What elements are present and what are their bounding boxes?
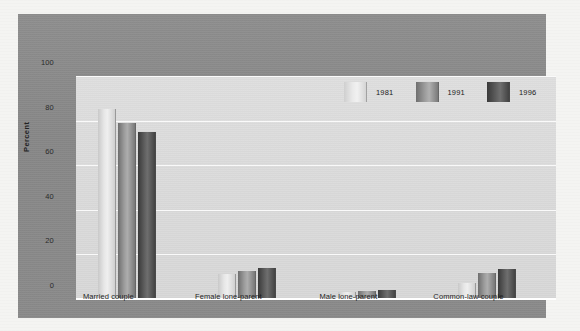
legend-swatch-1991 [416, 82, 439, 102]
y-axis-tick-label: 0 [50, 281, 54, 290]
legend-entry-1991: 1991 [416, 82, 488, 102]
x-axis-label-female-lone-parent: Female lone-parent [195, 292, 262, 301]
y-axis-tick-label: 60 [45, 147, 54, 156]
legend-swatch-1981 [344, 82, 367, 102]
chart-legend: 198119911996 [344, 82, 537, 102]
legend-label-1991: 1991 [448, 88, 466, 97]
gridline [76, 76, 556, 77]
legend-swatch-1996 [487, 82, 510, 102]
legend-entry-1996: 1996 [487, 82, 537, 102]
chart-figure-panel: 198119911996 [18, 14, 546, 318]
page-background: 198119911996 020406080100 Percent Marrie… [0, 0, 580, 331]
y-axis-tick-label: 40 [45, 191, 54, 200]
legend-label-1981: 1981 [376, 88, 394, 97]
y-axis-tick-label: 100 [41, 58, 54, 67]
y-axis-tick-label: 20 [45, 236, 54, 245]
x-axis-label-common-law-couple: Common-law couple [433, 292, 503, 301]
gridline [76, 121, 556, 122]
legend-entry-1981: 1981 [344, 82, 416, 102]
x-axis-label-married-couple: Married couple [83, 292, 134, 301]
y-axis-title: Percent [22, 122, 31, 152]
x-axis-label-male-lone-parent: Male lone-parent [319, 292, 377, 301]
plot-area [76, 76, 556, 299]
bar-1996-married-couple [138, 132, 156, 299]
bar-1981-married-couple [98, 109, 116, 299]
legend-label-1996: 1996 [519, 88, 537, 97]
y-axis: 020406080100 [18, 50, 58, 300]
y-axis-tick-label: 80 [45, 102, 54, 111]
bar-1991-married-couple [118, 123, 136, 299]
